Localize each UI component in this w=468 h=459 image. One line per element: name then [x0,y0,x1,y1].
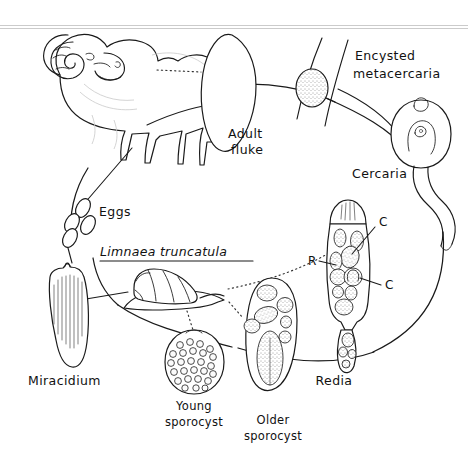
redia-inner-9 [342,333,354,347]
redia-inner-8 [335,299,353,315]
liver-fluke-life-cycle-figure: Adult fluke Encysted metacercaria [0,0,468,459]
encysted-metacercaria-label-line2: metacercaria [353,66,440,81]
miracidium-figure [49,263,88,367]
egg-4 [60,226,81,250]
cercaria-body [391,100,451,168]
cycle-arc-left [93,258,118,305]
metacercaria-cyst [296,69,328,107]
older-sporocyst-redia-1 [257,285,277,301]
leader-snail-to-older-sporocyst [229,302,243,318]
redia-inner-10 [339,347,348,357]
redia-figure [327,200,370,373]
redia-inner-11 [348,350,356,359]
miracidium-body [49,263,88,367]
redia-label: Redia [316,373,353,388]
cycle-arc-right [373,232,443,352]
encysted-metacercaria-figure [296,69,328,107]
marker-c-upper-label: C [379,215,387,229]
older-sporocyst-redia-2 [277,298,293,313]
life-cycle-diagram-canvas: Adult fluke Encysted metacercaria [0,0,468,459]
redia-inner-4 [330,252,342,270]
older-sporocyst-label-line1: Older [257,413,290,427]
leader-sheep-to-eggs [83,148,132,205]
miracidium-label: Miracidium [28,373,101,388]
snail-species-label: Limnaea truncatula [100,244,227,259]
young-sporocyst-figure [165,330,224,394]
cercaria-tail-left [413,166,443,246]
young-sporocyst-label-line2: sporocyst [165,415,223,429]
marker-r-label: R [308,254,316,268]
young-sporocyst-label-line1: Young [175,399,212,413]
older-sporocyst-redia-6 [279,331,291,343]
snail-figure [124,269,224,310]
older-sporocyst-redia-5 [281,316,292,328]
redia-inner-6 [333,286,344,298]
page-ruling-faint [0,26,468,29]
older-sporocyst-label-line2: sporocyst [244,429,302,443]
older-sporocyst-redia-4 [244,319,260,333]
leader-snail-to-young-sporocyst [187,311,193,330]
redia-inner-12 [342,360,350,368]
redia-inner-7 [345,286,357,300]
eggs-figure [60,196,99,250]
older-sporocyst-figure [244,278,297,391]
marker-c-lower-label: C [385,278,393,292]
cercaria-tail-right [428,167,455,244]
adult-fluke-label-line2: fluke [231,142,263,157]
leader-eggs-to-miracidium [68,248,72,263]
redia-head [330,200,366,224]
cercaria-label: Cercaria [352,166,407,181]
grass-blade-right [325,40,348,126]
redia-inner-cercaria [344,268,362,286]
encysted-metacercaria-label-line1: Encysted [355,48,415,63]
adult-fluke-label-line1: Adult [228,126,263,141]
eggs-label: Eggs [99,204,131,219]
redia-inner-1 [334,229,346,247]
cercaria-tail-tip [441,244,452,250]
